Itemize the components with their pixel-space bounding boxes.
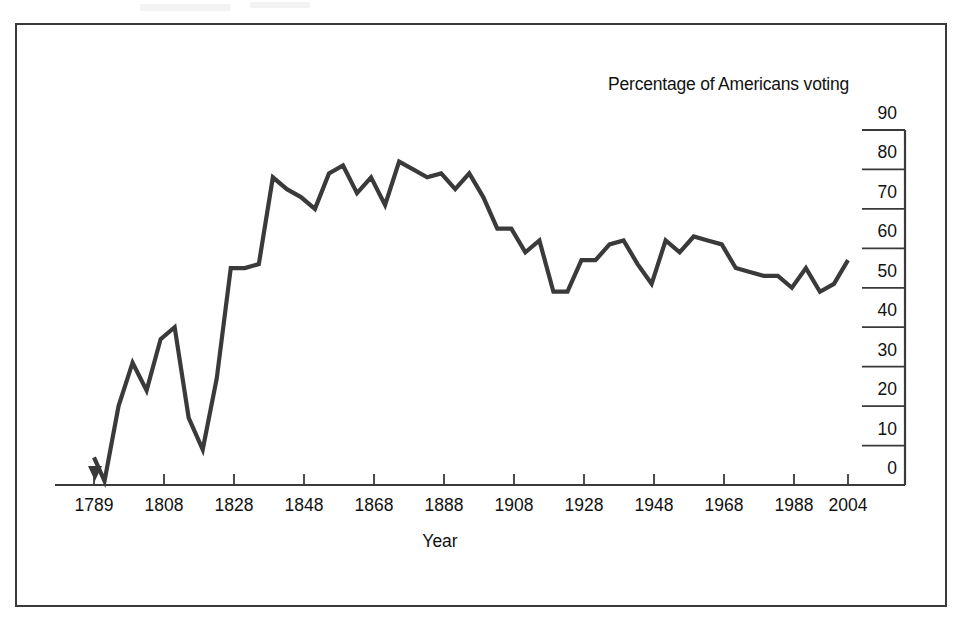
figure-container: Percentage of Americans voting Year 90 8… (0, 0, 968, 634)
y-tick-marks (862, 130, 905, 446)
turnout-series-line (94, 162, 848, 482)
x-tick-marks (94, 474, 848, 485)
line-chart-plot (0, 0, 968, 634)
